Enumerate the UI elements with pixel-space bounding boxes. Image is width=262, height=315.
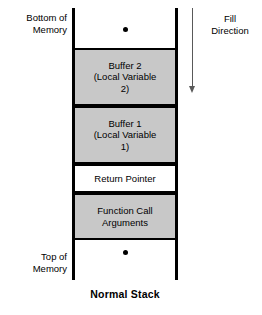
memory-continuation-dot-bottom — [123, 250, 128, 255]
stack-region-function-call-arguments-line-2: Arguments — [102, 217, 148, 229]
stack-region-buffer-1-line-3: 1) — [121, 141, 129, 153]
fill-direction-arrow-head-icon — [189, 86, 195, 93]
stack-region-buffer-2-line-1: Buffer 2 — [108, 60, 141, 72]
stack-region-buffer-1: Buffer 1 (Local Variable 1) — [75, 106, 175, 164]
stack-region-return-pointer: Return Pointer — [75, 164, 175, 193]
fill-direction-label-line-2: Direction — [200, 25, 260, 37]
stack-region-buffer-2-line-2: (Local Variable — [94, 71, 157, 83]
diagram-caption: Normal Stack — [40, 288, 210, 300]
memory-continuation-dot-top — [123, 27, 128, 32]
stack-region-buffer-1-line-1: Buffer 1 — [108, 118, 141, 130]
fill-direction-label-line-1: Fill — [200, 13, 260, 25]
stack-region-return-pointer-line-1: Return Pointer — [94, 173, 155, 185]
stack-region-function-call-arguments: Function Call Arguments — [75, 193, 175, 240]
bottom-of-memory-label: Bottom of Memory — [3, 12, 67, 36]
bottom-of-memory-label-line-1: Bottom of — [3, 12, 67, 24]
stack-region-lower-empty — [75, 240, 175, 280]
stack-region-buffer-2-line-3: 2) — [121, 83, 129, 95]
fill-direction-label: Fill Direction — [200, 13, 260, 37]
stack-right-rail — [175, 8, 178, 280]
stack-diagram: Buffer 2 (Local Variable 2) Buffer 1 (Lo… — [0, 0, 262, 315]
top-of-memory-label-line-1: Top of — [3, 251, 67, 263]
stack-region-function-call-arguments-line-1: Function Call — [97, 205, 152, 217]
bottom-of-memory-label-line-2: Memory — [3, 24, 67, 36]
stack-region-buffer-2: Buffer 2 (Local Variable 2) — [75, 48, 175, 106]
top-of-memory-label-line-2: Memory — [3, 263, 67, 275]
top-of-memory-label: Top of Memory — [3, 251, 67, 275]
fill-direction-arrow-shaft — [192, 8, 193, 88]
stack-region-buffer-1-line-2: (Local Variable — [94, 129, 157, 141]
